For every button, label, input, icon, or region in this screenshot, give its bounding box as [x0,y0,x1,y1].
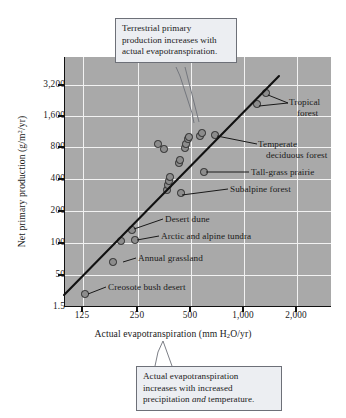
data-point [176,156,183,163]
gridline-horizontal [65,211,331,212]
x-tick-label: 1,000 [232,311,254,320]
annotation-temperate-line1: Temperate [258,139,327,150]
data-point [177,189,184,196]
callout-box-top: Terrestrial primary production increases… [115,18,237,63]
y-tick-mark [58,115,64,117]
x-axis-title-post: O/yr) [230,328,251,339]
annotation-creosote-bush-desert: Creosote bush desert [108,282,186,293]
annotation-temperate-line2: deciduous forest [266,150,327,161]
y-tick-mark [58,210,64,212]
x-tick-mark [295,307,297,312]
x-axis-title: Actual evapotranspiration (mm H2O/yr) [0,328,346,339]
gridline-horizontal [65,275,331,276]
annotation-arctic-alpine-tundra: Arctic and alpine tundra [161,231,251,242]
data-point [200,168,207,175]
y-tick-mark [58,84,64,86]
gridline-vertical [83,57,84,306]
callout-bottom-leader-2 [163,341,172,366]
x-axis-title-pre: Actual evapotranspiration (mm H [95,328,227,339]
data-point [117,237,124,244]
callout-bottom-leader [155,341,163,366]
x-tick-label: 500 [183,311,197,320]
annotation-tropical-forest-line2: forest [297,108,320,119]
data-point [109,258,116,265]
gridline-vertical [191,57,192,306]
y-tick-mark [58,146,64,148]
gridline-horizontal [65,85,331,86]
data-point [262,89,269,96]
data-point [131,236,138,243]
y-axis-title-pre: Net primary production (g/m [16,133,27,247]
figure-root: 3,2001,600800400200100501.5 1252505001,0… [0,0,346,418]
callout-top-line3: actual evapotranspiration. [122,46,231,58]
data-point [166,173,173,180]
callout-bottom-line3: precipitation and temperature. [143,394,276,406]
gridline-vertical [138,57,139,306]
x-tick-label: 250 [130,311,144,320]
callout-top-line2: production increases with [122,35,231,47]
x-tick-mark [136,307,138,312]
annotation-tall-grass-prairie: Tall-grass prairie [251,167,314,178]
gridline-vertical [244,57,245,306]
annotation-subalpine-forest: Subalpine forest [230,184,291,195]
callout-bottom-line3-b: temperature. [206,394,255,404]
data-point [185,133,192,140]
data-point [198,129,205,136]
data-point [160,145,167,152]
gridline-horizontal [65,243,331,244]
annotation-annual-grassland: Annual grassland [138,253,203,264]
data-point [253,100,260,107]
annotation-tropical-forest: Tropical forest [289,97,320,118]
annotation-temperate-deciduous-forest: Temperate deciduous forest [258,139,327,160]
y-axis-title: Net primary production (g/m2/yr) [16,82,27,282]
y-tick-label: 1.5 [53,302,65,311]
y-axis-title-superscript: 2 [16,130,23,133]
y-tick-mark [58,178,64,180]
y-tick-mark [58,274,64,276]
y-tick-mark [58,242,64,244]
x-tick-label: 2,000 [285,311,307,320]
data-point [128,226,135,233]
callout-top-line1: Terrestrial primary [122,23,231,35]
callout-box-bottom: Actual evapotranspiration increases with… [136,366,282,411]
callout-bottom-line2: increases with increased [143,383,276,395]
callout-bottom-line3-emphasis: and [192,394,206,404]
x-tick-mark [242,307,244,312]
x-tick-label: 125 [75,311,89,320]
annotation-desert-dune: Desert dune [165,214,210,225]
x-tick-mark [189,307,191,312]
y-axis-title-post: /yr) [16,116,27,130]
x-tick-mark [81,307,83,312]
gridline-horizontal [65,179,331,180]
data-point [81,290,88,297]
gridline-vertical [297,57,298,306]
data-point [211,131,218,138]
callout-bottom-line3-a: precipitation [143,394,192,404]
annotation-tropical-forest-line1: Tropical [289,97,320,108]
callout-bottom-line1: Actual evapotranspiration [143,371,276,383]
plot-area [64,57,331,307]
